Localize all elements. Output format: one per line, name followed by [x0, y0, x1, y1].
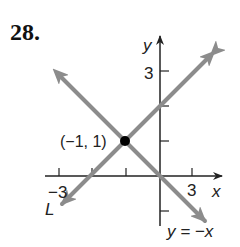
- y-axis: [160, 36, 169, 226]
- line-l-label: L: [45, 200, 54, 219]
- intersection-point: [120, 136, 130, 146]
- point-label: (−1, 1): [60, 133, 107, 150]
- y-tick-label-3: 3: [144, 64, 153, 83]
- x-axis: [45, 168, 222, 176]
- line-neg-x-label: y = −x: [166, 222, 214, 241]
- coordinate-graph: y 3 −3 3 x (−1, 1) L y = −x: [0, 0, 240, 247]
- x-tick-label-3: 3: [187, 181, 196, 200]
- x-axis-label: x: [211, 182, 221, 201]
- y-axis-label: y: [142, 36, 153, 55]
